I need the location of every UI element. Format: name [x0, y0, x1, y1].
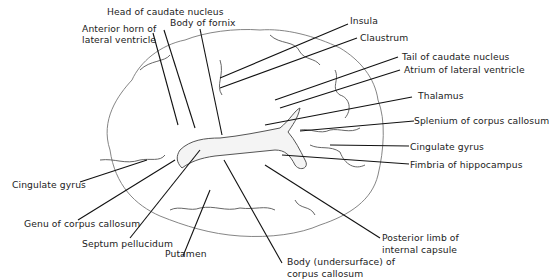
label-atrium-of-lateral-ventricle: Atrium of lateral ventricle — [404, 64, 525, 75]
sulcus-line — [170, 207, 275, 210]
sulcus-line — [310, 145, 365, 167]
label-genu-of-corpus-callosum: Genu of corpus callosum — [24, 218, 140, 229]
label-thalamus: Thalamus — [418, 90, 464, 101]
label-tail-of-caudate-nucleus: Tail of caudate nucleus — [402, 51, 509, 62]
brain-outline — [107, 29, 383, 236]
label-splenium-of-corpus-callosum: Splenium of corpus callosum — [414, 115, 549, 126]
label-fimbria-of-hippocampus: Fimbria of hippocampus — [410, 159, 523, 170]
label-body-corpus-callosum-line1: Body (undersurface) of — [287, 256, 395, 267]
label-cingulate-gyrus-left: Cingulate gyrus — [12, 179, 86, 190]
label-claustrum: Claustrum — [360, 32, 408, 43]
label-anterior-horn-line2: lateral ventricle — [82, 34, 156, 45]
label-putamen: Putamen — [165, 248, 207, 259]
label-anterior-horn-line1: Anterior horn of — [82, 23, 156, 34]
label-posterior-limb-line2: internal capsule — [382, 244, 457, 255]
lateral-ventricle — [177, 108, 306, 169]
sulcus-line — [295, 200, 315, 215]
label-septum-pellucidum: Septum pellucidum — [82, 238, 173, 249]
label-body-of-fornix: Body of fornix — [170, 17, 236, 28]
label-body-corpus-callosum-line2: corpus callosum — [287, 268, 363, 279]
label-posterior-limb-line1: Posterior limb of — [382, 232, 459, 243]
label-head-of-caudate-nucleus: Head of caudate nucleus — [107, 6, 224, 17]
sulcus-line — [100, 155, 165, 162]
label-insula: Insula — [350, 15, 378, 26]
label-cingulate-gyrus-right: Cingulate gyrus — [410, 141, 484, 152]
